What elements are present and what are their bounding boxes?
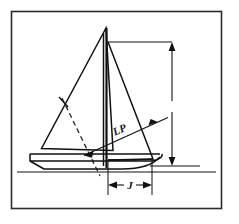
figure-background [0,0,239,224]
figure-container: LP J [0,0,239,224]
sailboat-diagram: LP J [0,0,239,224]
j-label: J [126,179,133,191]
